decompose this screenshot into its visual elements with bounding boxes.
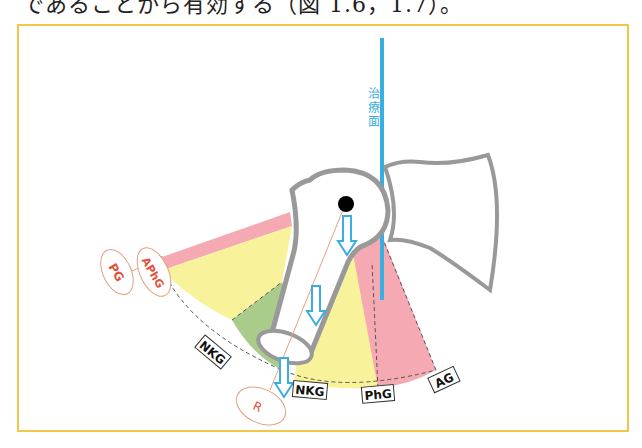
shoulder-diagram: PG APhG R NKG NKG PhG AG: [0, 0, 642, 448]
label-nkg-bottom: NKG: [295, 383, 325, 399]
treatment-plane-label: 治療面: [367, 87, 381, 129]
label-phg: PhG: [364, 387, 392, 403]
rotation-center: [338, 196, 354, 212]
scapula-outline: [385, 155, 497, 290]
